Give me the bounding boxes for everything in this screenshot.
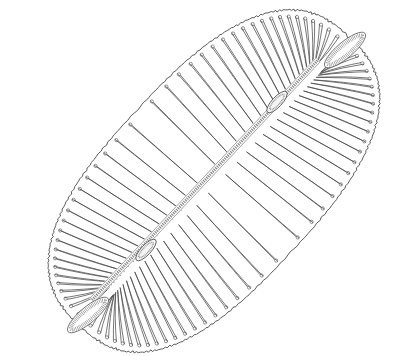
diatom-illustration <box>0 0 410 356</box>
illustration-canvas <box>0 0 410 356</box>
